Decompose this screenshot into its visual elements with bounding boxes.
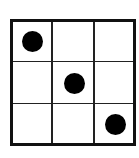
grid-line-vertical-2: [93, 22, 95, 143]
dot-row2-col2: [105, 114, 126, 135]
grid-line-horizontal-2: [13, 103, 133, 105]
grid-line-vertical-1: [51, 22, 53, 143]
dot-row0-col0: [22, 31, 43, 52]
grid-line-horizontal-1: [13, 61, 133, 63]
diagram-canvas: [0, 0, 139, 158]
three-by-three-grid: [10, 19, 136, 146]
dot-row1-col1: [64, 73, 85, 94]
